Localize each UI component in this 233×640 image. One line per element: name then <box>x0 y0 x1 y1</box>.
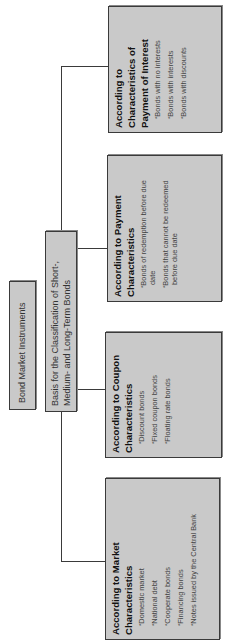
list-item: Floating rate bonds <box>163 337 172 444</box>
category-coupon: According to Coupon Characteristics Disc… <box>105 332 222 458</box>
category-market: According to Market Characteristics Dome… <box>105 478 220 640</box>
list-item: Domestic market <box>137 483 146 626</box>
basis-label: Basis for the Classification of Short-, … <box>46 232 73 411</box>
connector-coupon <box>77 389 105 390</box>
connector-market <box>61 561 105 562</box>
list-item: Notes issued by the Central Bank <box>189 483 198 626</box>
category-items: Discount bonds Fixed coupon bonds Floati… <box>137 337 172 453</box>
category-items: Bonds of redemption before due date Bond… <box>139 160 179 297</box>
category-items: Bonds with no interests Bonds with inter… <box>153 11 188 128</box>
category-title: According to Coupon Characteristics <box>109 337 135 453</box>
list-item: National debt <box>150 483 159 626</box>
category-items: Domestic market National debt Cooperate … <box>137 483 198 635</box>
category-title: According to Characteristics of Payment … <box>112 11 151 128</box>
basis-node: Basis for the Classification of Short-, … <box>45 231 77 412</box>
list-item: Cooperate bonds <box>163 483 172 626</box>
list-item: Bonds of redemption before due date <box>139 174 157 288</box>
root-label: Bond Market Instruments <box>10 282 28 409</box>
category-title: According to Payment Characteristics <box>111 160 137 297</box>
connector-payment <box>77 248 107 249</box>
list-item: Bonds with interests <box>166 11 175 119</box>
list-item: Bonds that cannot be redeemed before due… <box>161 174 179 288</box>
category-payment: According to Payment Characteristics Bon… <box>107 155 222 302</box>
connector-interest <box>61 66 108 67</box>
list-item: Financing bonds <box>176 483 185 626</box>
category-title: According to Market Characteristics <box>109 483 135 635</box>
list-item: Bonds with discounts <box>179 11 188 119</box>
list-item: Fixed coupon bonds <box>150 337 159 444</box>
list-item: Discount bonds <box>137 337 146 444</box>
root-node: Bond Market Instruments <box>9 281 36 410</box>
list-item: Bonds with no interests <box>153 11 162 119</box>
category-interest: According to Characteristics of Payment … <box>108 6 222 133</box>
